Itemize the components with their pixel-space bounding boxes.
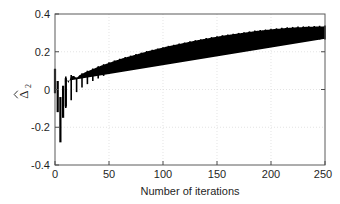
y-axis-title: Δ 2 [14,84,33,99]
y-axis-title-subscript: 2 [24,84,33,88]
x-tick-label-200: 200 [262,168,280,180]
x-tick-label-250: 250 [314,168,332,180]
x-tick-label-150: 150 [208,168,226,180]
data-series-delta-hat-2 [55,26,325,143]
x-tick-labels: 0 50 100 150 200 250 [52,168,332,180]
y-tick-label-0: 0 [44,84,50,96]
y-tick-label-0.2: 0.2 [35,46,50,58]
y-tick-label--0.2: -0.2 [31,121,50,133]
figure-container: 0.4 0.2 0 -0.2 -0.4 0 50 100 150 200 250… [0,0,340,204]
x-tick-label-100: 100 [154,168,172,180]
y-tick-label-0.4: 0.4 [35,8,50,20]
y-axis-title-symbol: Δ [16,90,31,98]
x-tick-label-0: 0 [52,168,58,180]
x-tick-label-50: 50 [103,168,115,180]
y-tick-label--0.4: -0.4 [31,159,50,171]
convergence-chart: 0.4 0.2 0 -0.2 -0.4 0 50 100 150 200 250… [0,0,340,204]
x-axis-title: Number of iterations [140,185,240,197]
y-tick-labels: 0.4 0.2 0 -0.2 -0.4 [31,8,50,171]
